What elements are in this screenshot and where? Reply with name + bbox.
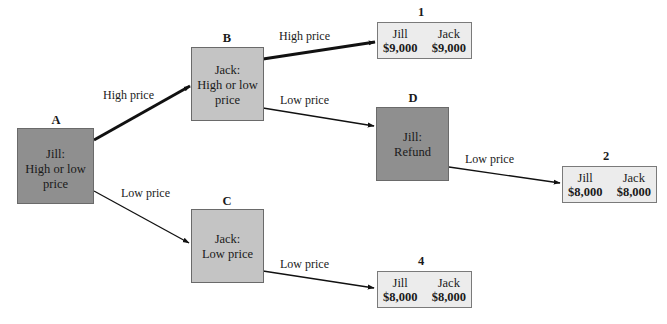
payoff-4-jack-value: $8,000: [432, 290, 466, 304]
node-c-player: Jack:: [202, 232, 253, 247]
edge-label-b-d: Low price: [280, 93, 329, 108]
node-a: Jill: High or low price: [17, 128, 94, 204]
node-a-line3: price: [25, 177, 85, 192]
payoff-2: Jill $8,000 Jack $8,000: [562, 166, 657, 203]
node-d-line2: Refund: [394, 145, 431, 160]
payoff-4: Jill $8,000 Jack $8,000: [377, 271, 472, 308]
payoff-2-number: 2: [603, 149, 609, 164]
payoff-1-number: 1: [418, 5, 424, 20]
payoff-4-jack-name: Jack: [432, 276, 466, 290]
edge-c-to-4: [263, 271, 374, 288]
edge-label-b-1: High price: [279, 29, 330, 44]
node-c-line2: Low price: [202, 247, 253, 262]
node-d-player: Jill:: [394, 130, 431, 145]
node-c: Jack: Low price: [191, 209, 264, 283]
node-c-letter: C: [222, 194, 231, 209]
payoff-1-jill-name: Jill: [383, 27, 417, 41]
payoff-2-jack-value: $8,000: [617, 185, 651, 199]
edge-b-to-1: [263, 42, 375, 59]
node-d: Jill: Refund: [376, 107, 449, 181]
edge-label-c-4: Low price: [280, 257, 329, 272]
node-a-letter: A: [51, 113, 60, 128]
payoff-2-jill-value: $8,000: [568, 185, 602, 199]
payoff-2-jill-name: Jill: [568, 171, 602, 185]
node-b-letter: B: [223, 31, 231, 46]
payoff-4-jill-name: Jill: [383, 276, 417, 290]
node-a-line2: High or low: [25, 162, 85, 177]
payoff-1-jack-name: Jack: [432, 27, 466, 41]
node-a-player: Jill:: [25, 147, 85, 162]
edges-layer: [0, 0, 667, 324]
payoff-2-jack-name: Jack: [617, 171, 651, 185]
node-b: Jack: High or low price: [191, 47, 264, 121]
edge-b-to-d: [263, 108, 374, 126]
edge-label-a-b: High price: [103, 88, 154, 103]
payoff-4-jill-value: $8,000: [383, 290, 417, 304]
payoff-1-jack-value: $9,000: [432, 41, 466, 55]
payoff-4-number: 4: [418, 254, 424, 269]
edge-label-a-c: Low price: [121, 186, 170, 201]
edge-label-d-2: Low price: [465, 152, 514, 167]
payoff-1: Jill $9,000 Jack $9,000: [377, 22, 472, 59]
node-b-line3: price: [197, 93, 257, 108]
edge-d-to-2: [449, 167, 560, 183]
payoff-1-jill-value: $9,000: [383, 41, 417, 55]
node-d-letter: D: [408, 91, 417, 106]
node-b-player: Jack:: [197, 63, 257, 78]
node-b-line2: High or low: [197, 78, 257, 93]
